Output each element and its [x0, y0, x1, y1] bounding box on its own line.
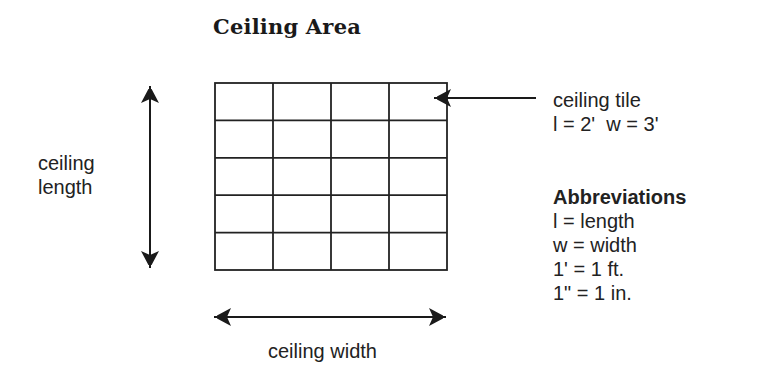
- ceiling-tile-grid: [215, 83, 447, 270]
- callout-dimensions: l = 2' w = 3': [553, 112, 658, 136]
- abbreviation-item: 1" = 1 in.: [553, 281, 686, 305]
- ceiling-width-label: ceiling width: [268, 339, 377, 363]
- ceiling-length-label-line1: ceiling: [38, 151, 95, 175]
- abbreviations-legend: Abbreviations l = length w = width 1' = …: [553, 185, 686, 305]
- abbreviation-item: w = width: [553, 233, 686, 257]
- ceiling-tile-callout: ceiling tile l = 2' w = 3': [553, 88, 658, 136]
- ceiling-length-label: ceiling length: [38, 151, 95, 199]
- callout-title: ceiling tile: [553, 88, 658, 112]
- abbreviation-item: 1' = 1 ft.: [553, 257, 686, 281]
- abbreviation-item: l = length: [553, 209, 686, 233]
- ceiling-length-label-line2: length: [38, 175, 95, 199]
- abbreviations-heading: Abbreviations: [553, 185, 686, 209]
